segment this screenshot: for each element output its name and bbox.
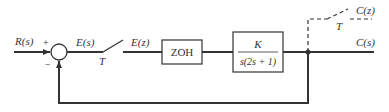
output-signal: C(s): [283, 36, 375, 55]
error-sampled-label: E(z): [130, 36, 150, 49]
sampler-period-label: T: [99, 55, 106, 67]
input-label: R(s): [14, 35, 34, 48]
plant-numerator: K: [253, 38, 262, 50]
output-sampler-period-label: T: [336, 20, 343, 32]
output-sampled-label: C(z): [356, 4, 375, 17]
block-diagram: R(s) + − E(s) T E(z) ZOH K s(2s + 1) C(s…: [0, 0, 389, 112]
sampled-error-signal: E(z): [123, 36, 162, 52]
minus-sign: −: [45, 59, 51, 70]
plus-sign: +: [43, 37, 49, 48]
output-continuous-label: C(s): [356, 36, 375, 49]
plant-block: K s(2s + 1): [233, 32, 283, 72]
zoh-label: ZOH: [171, 46, 194, 58]
zoh-block: ZOH: [162, 40, 202, 64]
error-continuous-label: E(s): [75, 36, 95, 49]
summing-junction: + −: [43, 37, 67, 70]
plant-denominator: s(2s + 1): [240, 56, 277, 68]
error-sampler: E(s) T: [67, 36, 123, 67]
